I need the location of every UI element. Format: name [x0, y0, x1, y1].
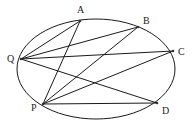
segment-qc — [21, 51, 173, 59]
chords — [21, 21, 173, 104]
point-a — [79, 20, 82, 23]
point-q — [20, 58, 23, 61]
label-a: A — [77, 4, 85, 15]
point-c — [172, 50, 175, 53]
label-q: Q — [7, 53, 15, 64]
label-b: B — [143, 15, 150, 26]
point-d — [156, 102, 159, 105]
segment-pd — [43, 103, 157, 104]
label-p: P — [31, 102, 37, 113]
ellipse-chord-diagram: A B C D P Q — [0, 0, 195, 129]
label-d: D — [162, 105, 169, 116]
point-p — [42, 103, 45, 106]
point-b — [137, 26, 140, 29]
segment-pc — [43, 51, 173, 104]
label-c: C — [178, 46, 185, 57]
